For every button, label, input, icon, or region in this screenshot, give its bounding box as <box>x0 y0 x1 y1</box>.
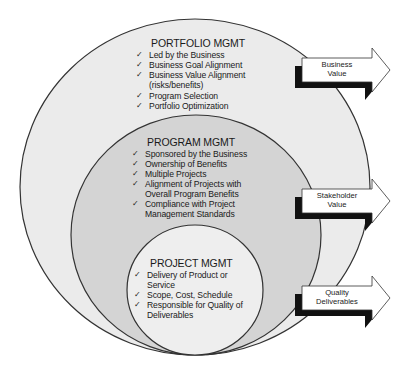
list-item: ✓Delivery of Product orService <box>134 270 264 290</box>
check-icon: ✓ <box>132 149 139 159</box>
check-icon: ✓ <box>136 91 143 101</box>
check-icon: ✓ <box>136 60 143 70</box>
list-item: ✓Responsible for Quality ofDeliverables <box>134 300 264 320</box>
list-item: ✓Ownership of Benefits <box>132 159 292 169</box>
quality-deliverables-label: Quality Deliverables <box>302 289 372 306</box>
stakeholder-value-label: Stakeholder Value <box>302 192 372 209</box>
list-item: ✓Compliance with ProjectManagement Stand… <box>132 199 292 219</box>
check-icon: ✓ <box>134 270 141 280</box>
list-item: ✓Scope, Cost, Schedule <box>134 290 264 300</box>
check-icon: ✓ <box>136 101 143 111</box>
project-block: PROJECT MGMT ✓Delivery of Product orServ… <box>134 257 264 320</box>
check-icon: ✓ <box>132 179 139 189</box>
project-title: PROJECT MGMT <box>134 257 264 269</box>
list-item: ✓Business Goal Alignment <box>136 60 296 70</box>
portfolio-list: ✓Led by the Business ✓Business Goal Alig… <box>136 50 296 111</box>
list-item: ✓Alignment of Projects withOverall Progr… <box>132 179 292 199</box>
list-item: ✓Portfolio Optimization <box>136 101 296 111</box>
list-item: ✓Multiple Projects <box>132 169 292 179</box>
check-icon: ✓ <box>132 159 139 169</box>
check-icon: ✓ <box>136 70 143 80</box>
check-icon: ✓ <box>132 169 139 179</box>
check-icon: ✓ <box>132 199 139 209</box>
program-title: PROGRAM MGMT <box>132 136 292 148</box>
portfolio-block: PORTFOLIO MGMT ✓Led by the Business ✓Bus… <box>136 37 296 111</box>
check-icon: ✓ <box>134 300 141 310</box>
list-item: ✓Sponsored by the Business <box>132 149 292 159</box>
check-icon: ✓ <box>136 50 143 60</box>
business-value-label: Business Value <box>302 61 372 78</box>
check-icon: ✓ <box>134 290 141 300</box>
portfolio-title: PORTFOLIO MGMT <box>136 37 296 49</box>
program-block: PROGRAM MGMT ✓Sponsored by the Business … <box>132 136 292 219</box>
list-item: ✓Led by the Business <box>136 50 296 60</box>
project-list: ✓Delivery of Product orService ✓Scope, C… <box>134 270 264 320</box>
program-list: ✓Sponsored by the Business ✓Ownership of… <box>132 149 292 219</box>
list-item: ✓Program Selection <box>136 91 296 101</box>
list-item: ✓Business Value Alignment(risks/benefits… <box>136 70 296 90</box>
